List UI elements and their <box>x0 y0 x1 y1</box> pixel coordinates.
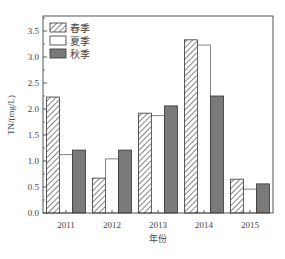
y-tick-label: 3.0 <box>28 52 40 62</box>
legend-swatch <box>50 36 66 45</box>
legend-label: 秋季 <box>70 48 90 60</box>
x-tick-label: 2013 <box>149 220 168 230</box>
bar <box>244 189 257 213</box>
bar <box>185 40 198 213</box>
x-tick-label: 2015 <box>241 220 260 230</box>
y-tick-label: 1.0 <box>28 156 40 166</box>
y-tick-label: 3.5 <box>28 26 40 36</box>
x-axis-title: 年份 <box>149 233 167 244</box>
legend-label: 夏季 <box>70 36 90 47</box>
y-tick-label: 0.0 <box>28 208 40 218</box>
y-tick-label: 0.5 <box>28 182 40 192</box>
y-tick-label: 2.0 <box>28 104 40 114</box>
x-tick-label: 2011 <box>57 220 75 230</box>
bar <box>211 96 224 213</box>
x-tick-label: 2012 <box>103 220 121 230</box>
bar <box>73 150 86 213</box>
bar <box>47 97 60 213</box>
bar <box>106 159 119 213</box>
legend: 春季夏季秋季 <box>50 23 90 60</box>
y-tick-label: 2.5 <box>28 78 40 88</box>
bar <box>152 116 165 213</box>
legend-label: 春季 <box>70 23 90 34</box>
bar <box>60 155 73 213</box>
x-tick-label: 2014 <box>195 220 214 230</box>
bar <box>165 106 178 213</box>
bar <box>198 45 211 213</box>
bar-chart: 201120122013201420150.00.51.01.52.02.53.… <box>0 0 285 259</box>
y-axis-title: TN/(mg/L) <box>6 95 16 135</box>
bar <box>119 150 132 213</box>
bar <box>139 113 152 213</box>
legend-swatch <box>50 49 66 58</box>
plot-area <box>47 40 270 213</box>
y-tick-label: 1.5 <box>28 130 40 140</box>
bar <box>93 178 106 213</box>
legend-swatch <box>50 23 66 32</box>
bar <box>257 184 270 213</box>
bar <box>231 179 244 213</box>
